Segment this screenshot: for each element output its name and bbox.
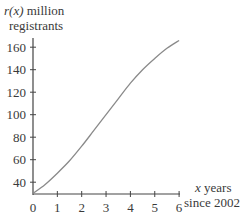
x-tick-label: 0 [30,200,37,215]
x-ticks: 0123456 [30,191,183,215]
y-tick-label: 160 [7,40,27,55]
x-tick-label: 5 [152,200,159,215]
y-axis-label-line2: registrants [9,18,63,33]
y-tick-label: 100 [7,107,27,122]
y-tick-label: 140 [7,62,27,77]
x-axis-label-line2: since 2002 [184,195,240,210]
y-ticks: 406080100120140160 [7,40,37,190]
x-axis-label-line1: x years [194,180,231,195]
y-axis-label-line1: r(x) million [4,3,65,18]
x-tick-label: 3 [103,200,110,215]
chart: r(x) million registrants 406080100120140… [0,0,243,215]
x-tick-label: 2 [78,200,85,215]
y-tick-label: 80 [13,130,26,145]
x-tick-label: 1 [54,200,61,215]
curve-r-of-x [33,40,179,193]
y-tick-label: 40 [13,175,26,190]
x-tick-label: 6 [176,200,183,215]
x-tick-label: 4 [127,200,134,215]
y-tick-label: 120 [7,85,27,100]
y-tick-label: 60 [13,152,26,167]
